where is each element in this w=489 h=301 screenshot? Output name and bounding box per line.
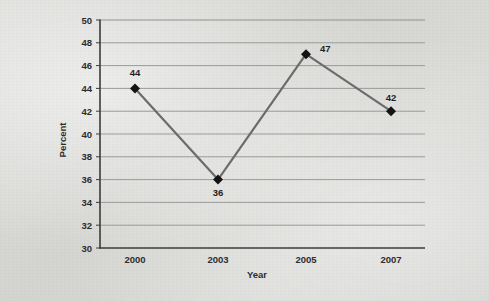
x-tick-label-2003: 2003 [207, 254, 228, 265]
data-label-2003: 36 [213, 187, 224, 198]
y-tick-label: 44 [81, 83, 92, 94]
data-label-2000: 44 [130, 67, 141, 78]
y-tick-label: 48 [81, 37, 92, 48]
y-tick-label: 32 [81, 220, 92, 231]
x-tick-label-2007: 2007 [380, 254, 401, 265]
y-tick-label: 38 [81, 151, 92, 162]
y-tick-label: 40 [81, 129, 92, 140]
chart-page: 50 48 46 44 42 40 38 36 34 32 30 Percent… [0, 0, 489, 301]
y-tick-label: 30 [81, 243, 92, 254]
y-tick-label: 34 [81, 197, 92, 208]
y-tick-label: 36 [81, 174, 92, 185]
y-tick-label: 42 [81, 106, 92, 117]
y-axis-tick-labels: 50 48 46 44 42 40 38 36 34 32 30 [81, 15, 92, 254]
data-label-2005: 47 [320, 43, 331, 54]
x-axis-title: Year [247, 269, 267, 280]
line-chart: 50 48 46 44 42 40 38 36 34 32 30 Percent… [0, 0, 489, 301]
gridlines [100, 20, 425, 225]
x-tick-label-2000: 2000 [124, 254, 145, 265]
data-point-labels: 44 36 47 42 [130, 43, 397, 198]
y-axis-title: Percent [57, 122, 68, 158]
x-axis-tick-labels: 2000 2003 2005 2007 [124, 254, 401, 265]
y-tick-label: 50 [81, 15, 92, 26]
data-line-series-percent [135, 54, 391, 179]
data-label-2007: 42 [386, 92, 397, 103]
y-tick-label: 46 [81, 60, 92, 71]
x-tick-label-2005: 2005 [295, 254, 317, 265]
